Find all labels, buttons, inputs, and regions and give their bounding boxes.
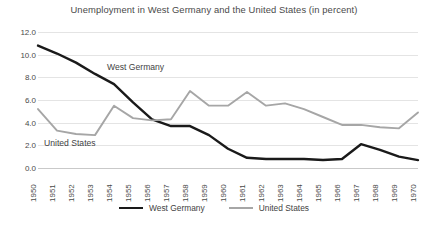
x-axis-tick: 1967 bbox=[356, 172, 366, 202]
x-axis-tick: 1955 bbox=[128, 172, 138, 202]
x-axis-tick: 1962 bbox=[261, 172, 271, 202]
x-axis-tick-label: 1970 bbox=[409, 184, 418, 202]
legend-swatch bbox=[229, 207, 253, 209]
x-axis-tick-label: 1965 bbox=[314, 184, 323, 202]
y-axis-tick-label: 8.0 bbox=[2, 73, 36, 82]
y-axis-tick-label: 6.0 bbox=[2, 96, 36, 105]
inline-label-united-states: United States bbox=[44, 138, 96, 148]
x-axis-tick-labels: 1950195119521953195419551956195719581959… bbox=[38, 170, 418, 204]
x-axis-tick-label: 1961 bbox=[238, 184, 247, 202]
y-axis-tick-label: 12.0 bbox=[2, 28, 36, 37]
x-axis-tick-label: 1951 bbox=[48, 184, 57, 202]
chart-title: Unemployment in West Germany and the Uni… bbox=[0, 4, 428, 15]
legend-item[interactable]: United States bbox=[229, 203, 309, 213]
x-axis-tick-label: 1969 bbox=[390, 184, 399, 202]
inline-label-west-germany: West Germany bbox=[107, 62, 164, 72]
x-axis-tick-label: 1968 bbox=[371, 184, 380, 202]
x-axis-tick: 1963 bbox=[280, 172, 290, 202]
x-axis-tick: 1952 bbox=[71, 172, 81, 202]
x-axis-tick-label: 1964 bbox=[295, 184, 304, 202]
legend-item[interactable]: West Germany bbox=[119, 203, 205, 213]
x-axis-tick: 1965 bbox=[318, 172, 328, 202]
x-axis-tick-label: 1952 bbox=[67, 184, 76, 202]
x-axis-tick: 1960 bbox=[223, 172, 233, 202]
x-axis-tick-label: 1959 bbox=[200, 184, 209, 202]
x-axis-line bbox=[38, 168, 418, 169]
x-axis-tick: 1956 bbox=[147, 172, 157, 202]
y-axis-tick-label: 4.0 bbox=[2, 118, 36, 127]
x-axis-tick-label: 1958 bbox=[181, 184, 190, 202]
x-axis-tick-label: 1962 bbox=[257, 184, 266, 202]
chart-container: Unemployment in West Germany and the Uni… bbox=[0, 0, 428, 227]
x-axis-tick: 1964 bbox=[299, 172, 309, 202]
y-axis-tick-label: 10.0 bbox=[2, 50, 36, 59]
legend-label: West Germany bbox=[149, 203, 205, 213]
x-axis-tick-label: 1967 bbox=[352, 184, 361, 202]
x-axis-tick-label: 1954 bbox=[105, 184, 114, 202]
y-axis-tick-label: 2.0 bbox=[2, 141, 36, 150]
x-axis-tick: 1959 bbox=[204, 172, 214, 202]
chart-legend: West GermanyUnited States bbox=[0, 203, 428, 213]
x-axis-tick-label: 1960 bbox=[219, 184, 228, 202]
x-axis-tick-label: 1963 bbox=[276, 184, 285, 202]
x-axis-tick-label: 1955 bbox=[124, 184, 133, 202]
x-axis-tick-label: 1953 bbox=[86, 184, 95, 202]
x-axis-tick-label: 1950 bbox=[29, 184, 38, 202]
x-axis-tick: 1958 bbox=[185, 172, 195, 202]
legend-label: United States bbox=[259, 203, 309, 213]
x-axis-tick-label: 1956 bbox=[143, 184, 152, 202]
x-axis-tick: 1970 bbox=[413, 172, 423, 202]
x-axis-tick: 1951 bbox=[52, 172, 62, 202]
x-axis-tick: 1950 bbox=[33, 172, 43, 202]
x-axis-tick: 1966 bbox=[337, 172, 347, 202]
x-axis-tick-label: 1957 bbox=[162, 184, 171, 202]
y-axis-tick-labels: 12.010.08.06.04.02.00.0 bbox=[0, 32, 36, 168]
x-axis-tick: 1957 bbox=[166, 172, 176, 202]
x-axis-tick-label: 1966 bbox=[333, 184, 342, 202]
x-axis-tick: 1953 bbox=[90, 172, 100, 202]
x-axis-tick: 1968 bbox=[375, 172, 385, 202]
x-axis-tick: 1969 bbox=[394, 172, 404, 202]
y-axis-tick-label: 0.0 bbox=[2, 164, 36, 173]
legend-swatch bbox=[119, 207, 143, 209]
x-axis-tick: 1954 bbox=[109, 172, 119, 202]
x-axis-tick: 1961 bbox=[242, 172, 252, 202]
series-line-united-states bbox=[38, 91, 418, 135]
